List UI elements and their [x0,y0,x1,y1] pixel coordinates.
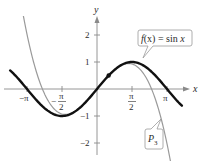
ytick-label-1: 1 [85,57,90,67]
callout-p3-P: P [147,133,154,144]
callout-p3: P3 [145,119,163,149]
chart: x y −π − π 2 π 2 π 2 1 −1 −2 [0,0,202,161]
x-axis-label: x [192,83,198,94]
y-axis: y [93,4,100,155]
marked-point [106,73,110,77]
callout-sin-mid: (x) = sin [144,33,180,45]
xtick-label-half-pi: π 2 [128,91,136,112]
xtick-neg-half-pi-sign: − [51,96,56,106]
x-axis-arrow-icon [183,87,190,92]
callout-sin-label: f(x) = sin x [141,33,185,45]
callout-sin: f(x) = sin x [138,30,192,58]
xtick-neg-half-pi-den: 2 [59,102,64,112]
ytick-label-2: 2 [85,30,90,40]
callout-p3-sub: 3 [154,139,158,147]
callout-sin-x: x [179,33,185,44]
xtick-half-pi-den: 2 [129,102,134,112]
xtick-neg-half-pi-num: π [59,91,64,101]
y-axis-label: y [93,4,99,15]
xtick-label-neg-pi: −π [19,93,29,103]
xtick-label-neg-half-pi: − π 2 [51,91,66,112]
xtick-label-pi: π [163,93,168,103]
y-axis-arrow-icon [95,16,100,23]
xtick-half-pi-num: π [129,91,134,101]
ytick-label-neg2: −2 [80,138,90,148]
ytick-label-neg1: −1 [80,111,90,121]
